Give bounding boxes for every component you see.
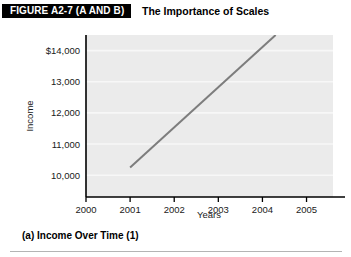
bottom-divider xyxy=(10,251,342,252)
x-axis-tick-label: 2005 xyxy=(296,204,317,215)
y-axis-tick-labels: 10,00011,00012,00013,000$14,000 xyxy=(46,45,80,181)
plot-area-background xyxy=(86,35,333,197)
x-axis-tick-label: 2000 xyxy=(75,204,96,215)
x-axis-tick-label: 2004 xyxy=(252,204,273,215)
figure-caption: (a) Income Over Time (1) xyxy=(22,230,139,241)
x-axis-tick-label: 2001 xyxy=(120,204,141,215)
figure-header: FIGURE A2-7 (A AND B) The Importance of … xyxy=(0,0,351,22)
x-axis-title: Years xyxy=(197,209,221,220)
y-axis-tick-label: $14,000 xyxy=(46,45,80,56)
y-axis-tick-label: 11,000 xyxy=(52,139,80,150)
figure-title: The Importance of Scales xyxy=(142,4,269,18)
y-axis-tick-label: 13,000 xyxy=(51,76,80,87)
y-axis-tick-label: 12,000 xyxy=(51,107,80,118)
chart-figure: 10,00011,00012,00013,000$14,000 20002001… xyxy=(0,22,351,222)
income-over-time-line-chart: 10,00011,00012,00013,000$14,000 20002001… xyxy=(0,22,351,222)
y-axis-title: Income xyxy=(24,100,35,131)
x-axis-tick-label: 2002 xyxy=(164,204,185,215)
y-axis-tick-label: 10,000 xyxy=(51,170,80,181)
figure-number-badge: FIGURE A2-7 (A AND B) xyxy=(2,4,131,18)
